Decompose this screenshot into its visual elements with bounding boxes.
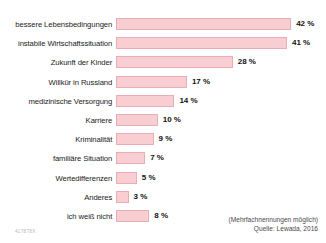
value-label: 5 % — [142, 173, 156, 182]
category-label: Kriminalität — [6, 135, 116, 144]
chart-row: Wertedifferenzen5 % — [0, 172, 326, 185]
bar-track: 41 % — [116, 37, 326, 50]
bar — [116, 133, 154, 145]
footer-note: (Mehrfachnennungen möglich) — [229, 215, 318, 224]
chart-row: medizinische Versorgung14 % — [0, 95, 326, 108]
value-label: 3 % — [134, 192, 148, 201]
chart-row: Anderes3 % — [0, 191, 326, 204]
value-label: 41 % — [292, 38, 310, 47]
value-label: 7 % — [150, 153, 164, 162]
chart-row: Kriminalität9 % — [0, 133, 326, 146]
bar — [116, 18, 291, 30]
chart-row: instabile Wirtschaftssituation41 % — [0, 37, 326, 50]
bar — [116, 210, 149, 222]
bar-track: 17 % — [116, 76, 326, 89]
bar — [116, 172, 137, 184]
bar — [116, 191, 129, 203]
bar-track: 9 % — [116, 133, 326, 146]
chart-footer: (Mehrfachnennungen möglich) Quelle: Lewa… — [229, 215, 318, 233]
chart-row: Zukunft der Kinder28 % — [0, 56, 326, 69]
footer-source: Quelle: Lewada, 2016 — [229, 224, 318, 233]
value-label: 17 % — [192, 77, 210, 86]
image-code: 417878X — [15, 229, 36, 234]
chart-row: Karriere10 % — [0, 114, 326, 127]
bar — [116, 56, 233, 68]
bar-track: 3 % — [116, 191, 326, 204]
category-label: ich weiß nicht — [6, 212, 116, 221]
bar-track: 10 % — [116, 114, 326, 127]
value-label: 14 % — [179, 96, 197, 105]
bar — [116, 37, 287, 49]
bar-chart: bessere Lebensbedingungen42 %instabile W… — [0, 0, 326, 243]
chart-row: Willkür in Russland17 % — [0, 76, 326, 89]
category-label: instabile Wirtschaftssituation — [6, 39, 116, 48]
category-label: Karriere — [6, 116, 116, 125]
value-label: 9 % — [159, 134, 173, 143]
value-label: 10 % — [163, 115, 181, 124]
category-label: Willkür in Russland — [6, 78, 116, 87]
value-label: 28 % — [238, 57, 256, 66]
bar-track: 14 % — [116, 95, 326, 108]
bar-track: 7 % — [116, 152, 326, 165]
bar — [116, 76, 187, 88]
category-label: Anderes — [6, 193, 116, 202]
category-label: medizinische Versorgung — [6, 97, 116, 106]
category-label: familiäre Situation — [6, 154, 116, 163]
bar — [116, 152, 145, 164]
bar — [116, 114, 158, 126]
bar-track: 28 % — [116, 56, 326, 69]
value-label: 8 % — [154, 211, 168, 220]
chart-row: familiäre Situation7 % — [0, 152, 326, 165]
bar-track: 5 % — [116, 172, 326, 185]
category-label: Zukunft der Kinder — [6, 58, 116, 67]
bar-track: 42 % — [116, 18, 326, 31]
value-label: 42 % — [296, 19, 314, 28]
chart-row: bessere Lebensbedingungen42 % — [0, 18, 326, 31]
category-label: Wertedifferenzen — [6, 174, 116, 183]
category-label: bessere Lebensbedingungen — [6, 20, 116, 29]
bar — [116, 95, 174, 107]
